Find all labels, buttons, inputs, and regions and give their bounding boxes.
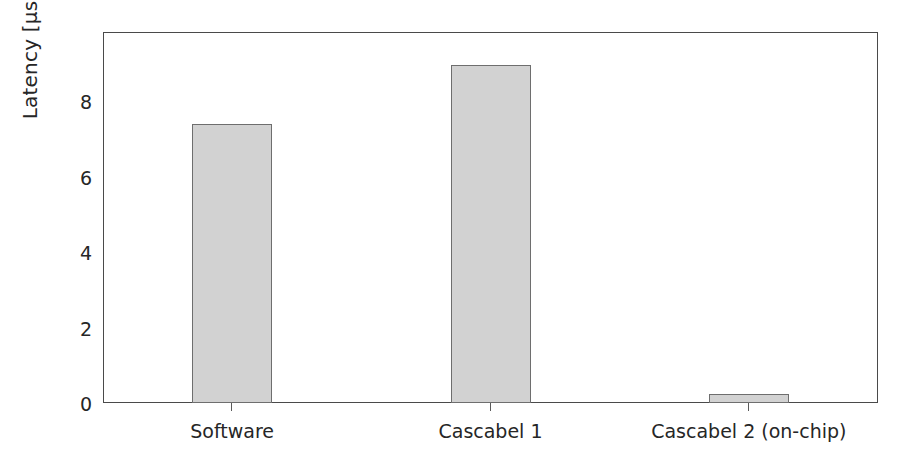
x-tick-mark <box>490 403 491 411</box>
y-axis-title: Latency [μs] <box>12 0 48 156</box>
x-tick-mark <box>748 403 749 411</box>
x-tick-label: Cascabel 2 (on-chip) <box>599 420 899 443</box>
y-axis-title-label: Latency [μs] <box>12 0 48 156</box>
y-tick-label: 0 <box>52 395 92 414</box>
x-tick-label: Software <box>82 420 382 443</box>
x-tick-mark <box>231 403 232 411</box>
y-tick-label-wrap: 6 <box>40 167 92 187</box>
y-tick-label: 8 <box>52 93 92 112</box>
bar <box>709 394 789 403</box>
y-tick-label-wrap: 4 <box>40 242 92 262</box>
plot-area <box>103 32 878 403</box>
y-tick-label-wrap: 2 <box>40 318 92 338</box>
y-tick-label: 2 <box>52 320 92 339</box>
bar-chart: Latency [μs] 02468 SoftwareCascabel 1Cas… <box>0 0 914 469</box>
y-tick-label: 6 <box>52 169 92 188</box>
bar <box>192 124 272 403</box>
bar <box>451 65 531 403</box>
y-tick-label-wrap: 0 <box>40 393 92 413</box>
y-tick-label: 4 <box>52 244 92 263</box>
y-tick-label-wrap: 8 <box>40 91 92 111</box>
x-tick-label: Cascabel 1 <box>341 420 641 443</box>
